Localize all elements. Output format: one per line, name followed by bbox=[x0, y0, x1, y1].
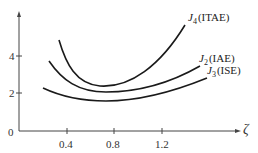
y-axis-arrow-icon bbox=[17, 11, 21, 17]
label-ise: J3(ISE) bbox=[207, 64, 241, 79]
x-tick-label: 0.8 bbox=[106, 138, 120, 150]
curve-itae bbox=[59, 25, 185, 86]
x-tick-label: 1.2 bbox=[155, 138, 169, 150]
x-tick-label: 0.4 bbox=[59, 138, 73, 150]
label-itae: J4(ITAE) bbox=[188, 11, 230, 26]
origin-label: 0 bbox=[8, 126, 14, 138]
curve-iae bbox=[49, 61, 200, 92]
y-tick-label: 2 bbox=[9, 87, 15, 99]
x-axis-arrow-icon bbox=[235, 129, 241, 133]
y-ticks: 4 2 0 bbox=[8, 50, 22, 138]
chart: 4 2 0 0.4 0.8 1.2 ζ J4(ITAE) J2(IAE) J3(… bbox=[0, 0, 258, 153]
x-axis-label: ζ bbox=[243, 122, 250, 137]
y-tick-label: 4 bbox=[9, 50, 15, 62]
